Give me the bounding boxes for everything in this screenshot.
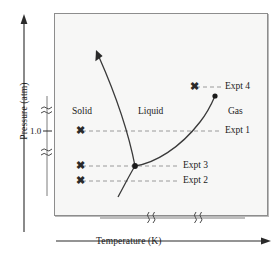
x-axis-label: Temperature (K) [96, 236, 162, 246]
expt-3-x-marker: ✖ [76, 160, 85, 171]
y-axis-break-lower [41, 149, 52, 156]
expt-4-x-marker: ✖ [190, 81, 199, 92]
phase-diagram-figure: ✖ ✖ ✖ ✖ Pressure (atm) Temperature (K) 1… [0, 0, 280, 259]
expt-2-label: Expt 2 [183, 175, 208, 185]
expt-3-label: Expt 3 [183, 160, 208, 170]
y-axis-ticks [43, 96, 52, 196]
y-axis-label: Pressure (atm) [19, 51, 29, 171]
y-axis-break-upper [41, 107, 52, 114]
expt-1-x-marker: ✖ [76, 125, 85, 136]
expt-1-label: Expt 1 [225, 125, 250, 135]
x-axis-arrow [56, 238, 271, 245]
y-axis-tick-label-1: 1.0 [30, 126, 41, 136]
region-label-gas: Gas [228, 106, 243, 116]
expt-4-label: Expt 4 [225, 81, 250, 91]
region-label-liquid: Liquid [138, 106, 163, 116]
region-label-solid: Solid [72, 106, 92, 116]
expt-2-x-marker: ✖ [76, 175, 85, 186]
